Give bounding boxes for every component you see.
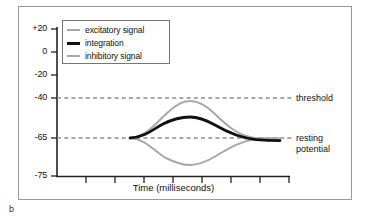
threshold-annotation-label: threshold xyxy=(296,93,333,104)
y-tick-label-20: +20 xyxy=(16,23,47,33)
figure-panel: +20 0 -20 -40 -65 -75 Time (milliseconds… xyxy=(0,0,371,217)
legend-label-excitatory: excitatory signal xyxy=(85,25,144,35)
legend-swatch-inhibitory-icon xyxy=(67,55,80,57)
legend-swatch-excitatory-icon xyxy=(67,29,80,31)
resting-potential-annotation-label: resting potential xyxy=(296,133,330,155)
y-tick-label-minus75: -75 xyxy=(16,170,47,180)
y-tick-label-minus40: -40 xyxy=(16,92,47,102)
x-axis-title: Time (milliseconds) xyxy=(57,182,290,193)
legend-item-excitatory-signal: excitatory signal xyxy=(67,24,165,36)
resting-potential-line1: resting xyxy=(296,133,330,144)
legend-item-integration: integration xyxy=(67,37,165,49)
panel-letter: b xyxy=(9,204,14,214)
legend-label-integration: integration xyxy=(85,38,124,48)
legend-swatch-integration-icon xyxy=(67,42,80,45)
legend-item-inhibitory-signal: inhibitory signal xyxy=(67,50,165,62)
resting-potential-line2: potential xyxy=(296,144,330,155)
chart-legend: excitatory signal integration inhibitory… xyxy=(62,20,170,64)
y-tick-label-minus20: -20 xyxy=(16,69,47,79)
y-tick-label-0: 0 xyxy=(16,46,47,56)
legend-label-inhibitory: inhibitory signal xyxy=(85,51,142,61)
y-tick-label-minus65: -65 xyxy=(16,132,47,142)
